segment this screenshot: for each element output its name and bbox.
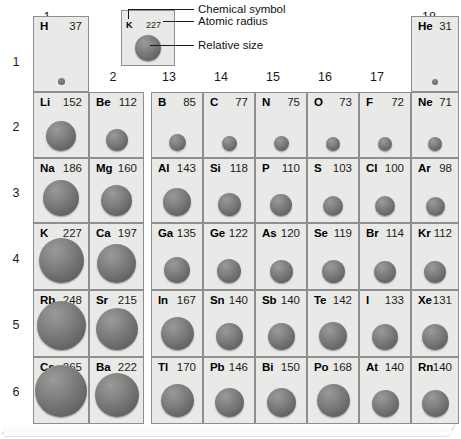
group-number-15: 15 bbox=[258, 70, 288, 84]
element-cell-Ar: Ar98 bbox=[411, 158, 459, 223]
relative-size-sphere-Po bbox=[317, 384, 350, 417]
element-symbol: In bbox=[158, 294, 168, 307]
element-symbol: Sr bbox=[96, 294, 108, 307]
element-cell-S: S103 bbox=[307, 158, 359, 223]
element-symbol: H bbox=[40, 20, 48, 33]
element-atomic-radius: 146 bbox=[229, 361, 248, 374]
element-cell-N: N75 bbox=[255, 92, 307, 158]
element-atomic-radius: 133 bbox=[385, 294, 404, 307]
legend-label-relative-size: Relative size bbox=[198, 39, 263, 52]
relative-size-sphere-H bbox=[58, 78, 65, 85]
element-cell-Sb: Sb140 bbox=[255, 290, 307, 357]
element-cell-Ga: Ga135 bbox=[151, 223, 203, 290]
period-number-3: 3 bbox=[7, 186, 25, 200]
element-cell-As: As120 bbox=[255, 223, 307, 290]
element-symbol: Li bbox=[40, 96, 50, 109]
element-symbol: Cl bbox=[366, 162, 377, 175]
relative-size-sphere-Mg bbox=[101, 185, 132, 216]
element-symbol: Ca bbox=[96, 227, 111, 240]
element-symbol: Xe bbox=[418, 294, 432, 307]
element-cell-Po: Po168 bbox=[307, 357, 359, 424]
element-atomic-radius: 110 bbox=[282, 162, 300, 175]
element-symbol: Ne bbox=[418, 96, 433, 109]
group-number-2: 2 bbox=[98, 70, 128, 84]
element-atomic-radius: 118 bbox=[230, 162, 248, 175]
element-atomic-radius: 160 bbox=[118, 162, 137, 175]
element-atomic-radius: 75 bbox=[287, 96, 300, 109]
element-atomic-radius: 152 bbox=[63, 96, 82, 109]
element-atomic-radius: 170 bbox=[177, 361, 196, 374]
relative-size-sphere-Kr bbox=[424, 261, 446, 283]
element-symbol: K bbox=[40, 227, 48, 240]
element-atomic-radius: 215 bbox=[118, 294, 137, 307]
element-symbol: C bbox=[210, 96, 218, 109]
element-cell-Br: Br114 bbox=[359, 223, 411, 290]
element-atomic-radius: 131 bbox=[433, 294, 452, 307]
element-cell-He: He31 bbox=[411, 16, 459, 92]
relative-size-sphere-Ne bbox=[428, 137, 442, 151]
element-cell-Rb: Rb248 bbox=[33, 290, 89, 357]
element-symbol: At bbox=[366, 361, 378, 374]
relative-size-sphere-F bbox=[378, 137, 392, 151]
element-cell-Se: Se119 bbox=[307, 223, 359, 290]
element-atomic-radius: 142 bbox=[333, 294, 352, 307]
relative-size-sphere-Al bbox=[163, 188, 191, 216]
legend-radius: 227 bbox=[146, 20, 161, 30]
element-cell-Si: Si118 bbox=[203, 158, 255, 223]
element-symbol: Po bbox=[314, 361, 329, 374]
element-atomic-radius: 140 bbox=[281, 294, 300, 307]
element-symbol: Si bbox=[210, 162, 221, 175]
relative-size-sphere-Sb bbox=[268, 323, 295, 350]
element-cell-Kr: Kr112 bbox=[411, 223, 459, 290]
element-cell-B: B85 bbox=[151, 92, 203, 158]
element-cell-Te: Te142 bbox=[307, 290, 359, 357]
element-cell-H: H37 bbox=[33, 16, 89, 92]
element-atomic-radius: 103 bbox=[333, 162, 352, 175]
element-cell-Na: Na186 bbox=[33, 158, 89, 223]
legend-symbol: K bbox=[126, 20, 133, 30]
element-cell-P: P110 bbox=[255, 158, 307, 223]
element-symbol: Ba bbox=[96, 361, 111, 374]
relative-size-sphere-Ga bbox=[164, 257, 190, 283]
element-cell-Sn: Sn140 bbox=[203, 290, 255, 357]
element-symbol: Pb bbox=[210, 361, 225, 374]
element-atomic-radius: 167 bbox=[177, 294, 196, 307]
period-number-2: 2 bbox=[7, 120, 25, 134]
element-cell-F: F72 bbox=[359, 92, 411, 158]
element-cell-Sr: Sr215 bbox=[89, 290, 144, 357]
element-atomic-radius: 31 bbox=[439, 20, 452, 33]
relative-size-sphere-Br bbox=[374, 261, 396, 283]
leader-symbol-vertical bbox=[128, 9, 129, 19]
element-atomic-radius: 77 bbox=[235, 96, 248, 109]
relative-size-sphere-He bbox=[432, 79, 438, 85]
element-cell-Ne: Ne71 bbox=[411, 92, 459, 158]
element-cell-Be: Be112 bbox=[89, 92, 144, 158]
relative-size-sphere-S bbox=[323, 196, 343, 216]
element-symbol: Kr bbox=[418, 227, 431, 240]
element-symbol: Rn bbox=[418, 361, 433, 374]
period-number-5: 5 bbox=[7, 318, 25, 332]
relative-size-sphere-Bi bbox=[267, 388, 296, 417]
relative-size-sphere-Rb bbox=[37, 301, 86, 350]
relative-size-sphere-Sr bbox=[96, 308, 138, 350]
relative-size-sphere-Be bbox=[106, 129, 128, 151]
relative-size-sphere-Se bbox=[322, 260, 345, 283]
element-cell-Li: Li152 bbox=[33, 92, 89, 158]
element-cell-Ba: Ba222 bbox=[89, 357, 144, 424]
period-number-4: 4 bbox=[7, 252, 25, 266]
relative-size-sphere-Ge bbox=[217, 259, 241, 283]
group-number-13: 13 bbox=[154, 70, 184, 84]
element-symbol: Ar bbox=[418, 162, 431, 175]
element-atomic-radius: 150 bbox=[281, 361, 300, 374]
relative-size-sphere-B bbox=[169, 134, 186, 151]
element-symbol: As bbox=[262, 227, 277, 240]
element-cell-Cs: Cs265 bbox=[33, 357, 89, 424]
leader-size-horizontal bbox=[150, 45, 194, 46]
element-cell-Ge: Ge122 bbox=[203, 223, 255, 290]
element-symbol: P bbox=[262, 162, 270, 175]
relative-size-sphere-In bbox=[161, 317, 194, 350]
period-number-1: 1 bbox=[7, 55, 25, 69]
element-cell-K: K227 bbox=[33, 223, 89, 290]
legend-example-cell: K 227 bbox=[121, 10, 175, 66]
element-symbol: O bbox=[314, 96, 323, 109]
